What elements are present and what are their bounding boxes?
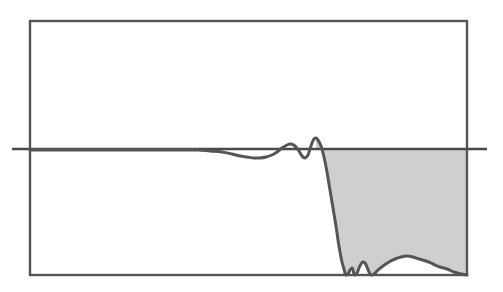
figure-container — [0, 0, 503, 292]
stopband-shaded-region — [316, 138, 467, 275]
filter-response-plot — [0, 0, 503, 292]
stopband-fill-group — [316, 138, 467, 275]
